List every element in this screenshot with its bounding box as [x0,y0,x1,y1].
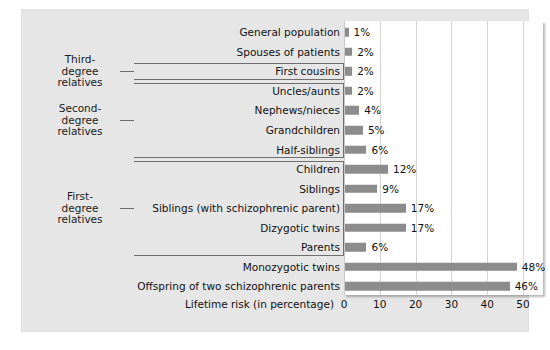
category-label: Nephews/nieces [255,104,340,116]
category-label: Grandchildren [266,124,340,136]
x-tick-50: 50 [516,298,529,310]
chart-row: Offspring of two schizophrenic parents46… [22,277,528,297]
chart-row: Spouses of patients2% [22,42,528,62]
category-label: Offspring of two schizophrenic parents [137,280,340,292]
chart-row: General population1% [22,23,528,43]
bar [345,224,406,233]
value-label: 1% [354,26,371,38]
bar [345,243,366,252]
bar [345,263,517,272]
bar [345,184,377,193]
chart-row: Parents6% [22,238,528,258]
bar [345,48,352,57]
category-label: Dizygotic twins [260,222,340,234]
category-label: Uncles/aunts [272,85,340,97]
bar [345,204,406,213]
value-label: 6% [371,241,388,253]
bar [345,126,363,135]
category-label: Half-siblings [276,144,340,156]
chart-row: Siblings (with schizophrenic parent)17% [22,198,528,218]
value-label: 6% [371,144,388,156]
category-label: Monozygotic twins [243,261,340,273]
value-label: 2% [357,46,374,58]
value-label: 9% [382,183,399,195]
x-tick-10: 10 [373,298,386,310]
chart-row: Children12% [22,159,528,179]
x-tick-40: 40 [481,298,494,310]
value-label: 12% [393,163,416,175]
chart-figure: Third-degreerelativesSecond-degreerelati… [22,10,528,331]
category-label: Siblings [299,183,340,195]
chart-row: Siblings9% [22,179,528,199]
chart-row: Uncles/aunts2% [22,81,528,101]
value-label: 17% [411,222,434,234]
bar [345,282,510,291]
chart-row: First cousins2% [22,62,528,82]
x-tick-30: 30 [445,298,458,310]
chart-row: Grandchildren5% [22,120,528,140]
bar [345,87,352,96]
value-label: 5% [368,124,385,136]
chart-row: Half-siblings6% [22,140,528,160]
category-label: Spouses of patients [237,46,340,58]
category-label: Siblings (with schizophrenic parent) [152,202,340,214]
bar [345,28,349,37]
value-label: 2% [357,85,374,97]
chart-row: Nephews/nieces4% [22,101,528,121]
x-axis-ticks: 01020304050 [22,298,528,318]
value-label: 48% [522,261,545,273]
category-label: First cousins [275,65,340,77]
category-label: Parents [301,241,340,253]
chart-row: Monozygotic twins48% [22,257,528,277]
x-tick-0: 0 [341,298,348,310]
bar [345,67,352,76]
chart-row: Dizygotic twins17% [22,218,528,238]
value-label: 46% [515,280,538,292]
bar [345,145,366,154]
x-tick-20: 20 [409,298,422,310]
bar [345,106,359,115]
bar [345,165,388,174]
value-label: 2% [357,65,374,77]
value-label: 4% [364,104,381,116]
category-label: Children [296,163,340,175]
category-label: General population [239,26,340,38]
value-label: 17% [411,202,434,214]
